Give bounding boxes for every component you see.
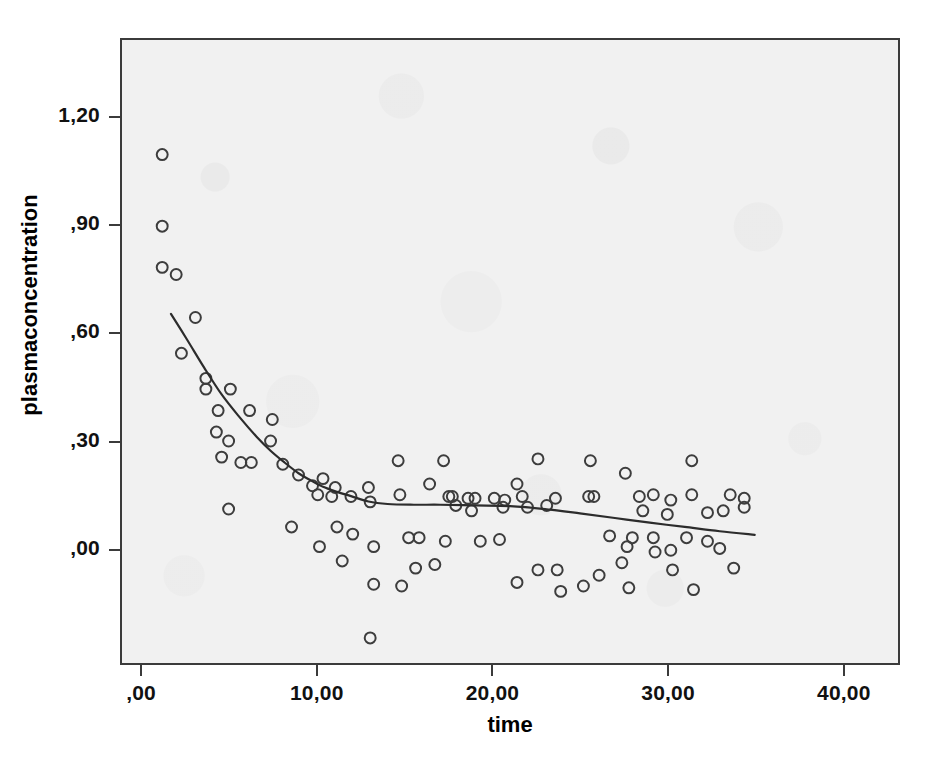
data-point: [394, 489, 405, 500]
x-axis-title: time: [120, 712, 900, 738]
data-point: [498, 502, 509, 513]
data-point: [223, 504, 234, 515]
y-axis-tick-mark: [109, 116, 120, 118]
data-point: [555, 586, 566, 597]
data-point: [718, 505, 729, 516]
data-point: [585, 455, 596, 466]
data-point: [157, 221, 168, 232]
data-point: [438, 455, 449, 466]
data-point: [594, 570, 605, 581]
data-point: [157, 262, 168, 273]
plot-canvas: [122, 40, 898, 663]
y-axis-tick-label: ,30: [0, 428, 100, 452]
data-point: [314, 541, 325, 552]
data-point: [410, 563, 421, 574]
data-point: [213, 405, 224, 416]
data-point: [211, 427, 222, 438]
x-axis-tick-label: 30,00: [608, 681, 728, 705]
data-point: [440, 536, 451, 547]
data-point: [347, 529, 358, 540]
data-point: [702, 507, 713, 518]
data-point: [728, 563, 739, 574]
x-axis-tick-mark: [667, 665, 669, 676]
data-point: [318, 473, 329, 484]
data-point: [650, 547, 661, 558]
data-point: [648, 489, 659, 500]
data-point: [466, 505, 477, 516]
data-point: [489, 493, 500, 504]
y-axis-tick-label: ,60: [0, 319, 100, 343]
data-point: [216, 452, 227, 463]
data-point: [604, 530, 615, 541]
x-axis-tick-mark: [316, 665, 318, 676]
data-point: [414, 532, 425, 543]
data-point: [662, 509, 673, 520]
data-point: [512, 577, 523, 588]
data-point: [494, 534, 505, 545]
data-point: [665, 545, 676, 556]
data-point: [244, 405, 255, 416]
data-point: [686, 489, 697, 500]
data-point: [429, 559, 440, 570]
data-points-layer: [157, 149, 750, 643]
data-point: [393, 455, 404, 466]
data-point: [499, 495, 510, 506]
data-point: [688, 584, 699, 595]
x-axis-tick-label: 40,00: [784, 681, 904, 705]
data-point: [714, 543, 725, 554]
data-point: [667, 564, 678, 575]
data-point: [286, 521, 297, 532]
y-axis-tick-label: ,00: [0, 536, 100, 560]
x-axis-tick-mark: [491, 665, 493, 676]
data-point: [157, 149, 168, 160]
data-point: [267, 414, 278, 425]
y-axis-tick-mark: [109, 332, 120, 334]
data-point: [623, 582, 634, 593]
data-point: [725, 489, 736, 500]
data-point: [312, 489, 323, 500]
y-axis-tick-label: 1,20: [0, 103, 100, 127]
data-point: [368, 579, 379, 590]
scatter-plot-figure: 1,20,90,60,30,00 ,0010,0020,0030,0040,00…: [0, 0, 941, 768]
data-point: [337, 555, 348, 566]
data-point: [620, 468, 631, 479]
data-point: [235, 457, 246, 468]
x-axis-tick-label: ,00: [81, 681, 201, 705]
x-axis-tick-mark: [140, 665, 142, 676]
data-point: [517, 491, 528, 502]
data-point: [665, 495, 676, 506]
y-axis-tick-label: ,90: [0, 211, 100, 235]
data-point: [512, 479, 523, 490]
data-point: [616, 557, 627, 568]
data-point: [475, 536, 486, 547]
data-point: [470, 493, 481, 504]
data-point: [686, 455, 697, 466]
data-point: [532, 564, 543, 575]
x-axis-tick-label: 20,00: [432, 681, 552, 705]
data-point: [365, 632, 376, 643]
y-axis-tick-mark: [109, 224, 120, 226]
data-point: [702, 536, 713, 547]
data-point: [424, 479, 435, 490]
y-axis-tick-mark: [109, 441, 120, 443]
data-point: [265, 436, 276, 447]
data-point: [634, 491, 645, 502]
data-point: [332, 521, 343, 532]
data-point: [637, 505, 648, 516]
x-axis-tick-mark: [843, 665, 845, 676]
data-point: [552, 564, 563, 575]
data-point: [171, 269, 182, 280]
data-point: [176, 348, 187, 359]
data-point: [622, 541, 633, 552]
data-point: [396, 581, 407, 592]
x-axis-tick-label: 10,00: [257, 681, 377, 705]
y-axis-tick-mark: [109, 549, 120, 551]
data-point: [648, 532, 659, 543]
data-point: [246, 457, 257, 468]
data-point: [403, 532, 414, 543]
data-point: [681, 532, 692, 543]
plot-area: [120, 38, 900, 665]
data-point: [368, 541, 379, 552]
data-point: [532, 453, 543, 464]
data-point: [225, 384, 236, 395]
